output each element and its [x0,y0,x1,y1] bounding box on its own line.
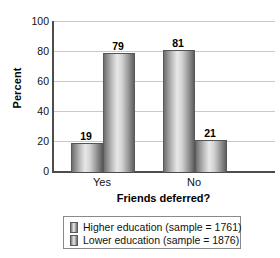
legend-swatch-icon-higher-education [70,222,78,233]
plot-area: Percent 100 80 60 40 20 0 Yes No Friends… [0,0,280,200]
y-axis-tick-labels: 100 80 60 40 20 0 [25,0,49,200]
y-tick-label-20: 20 [25,135,49,147]
gridline-80 [53,51,275,52]
gridline-40 [53,111,275,112]
x-tick-label-yes: Yes [67,176,137,188]
chart-screenshot: Percent 100 80 60 40 20 0 Yes No Friends… [0,0,280,258]
y-tick-label-0: 0 [25,165,49,177]
y-tick-label-80: 80 [25,45,49,57]
gridline-100 [53,21,275,22]
y-tick-label-100: 100 [25,15,49,27]
legend-item-lower-education: Lower education (sample = 1876) [70,233,239,247]
legend-item-higher-education: Higher education (sample = 1761) [70,220,241,234]
y-tick-label-40: 40 [25,105,49,117]
chart-legend: Higher education (sample = 1761) Lower e… [63,216,241,249]
gridline-20 [53,141,275,142]
x-tick-label-no: No [159,176,229,188]
legend-label-higher-education: Higher education (sample = 1761) [83,221,241,233]
y-tick-label-60: 60 [25,75,49,87]
legend-label-lower-education: Lower education (sample = 1876) [83,234,239,246]
y-axis-title: Percent [11,58,23,118]
x-axis-line [52,171,275,173]
gridline-60 [53,81,275,82]
y-axis-line [52,21,54,172]
legend-swatch-icon-lower-education [70,235,78,246]
x-axis-title: Friends deferred? [52,192,275,204]
